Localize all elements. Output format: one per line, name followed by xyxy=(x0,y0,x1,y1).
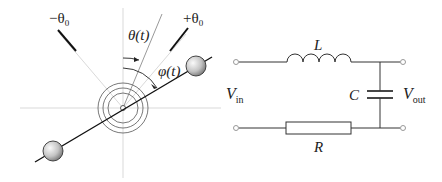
capacitor-label: C xyxy=(349,87,360,103)
resistor-label: R xyxy=(313,139,323,155)
pendulum-diagram: −θ0 +θ0 θ(t) φ(t) xyxy=(20,8,221,178)
inductor-label: L xyxy=(313,37,322,53)
plus-theta0-label: +θ0 xyxy=(183,10,204,28)
ball-upper xyxy=(186,56,206,76)
theta-t-label: θ(t) xyxy=(128,27,150,44)
inductor xyxy=(287,54,351,62)
v-out-label: Vout xyxy=(403,85,426,105)
minus-theta0-label: −θ0 xyxy=(49,10,70,28)
figure: −θ0 +θ0 θ(t) φ(t) L C R Vin Vout xyxy=(0,0,442,182)
terminal-out-bottom xyxy=(401,126,406,131)
circuit-diagram xyxy=(234,54,406,134)
v-in-label: Vin xyxy=(226,85,244,105)
phi-t-label: φ(t) xyxy=(158,63,180,80)
terminal-in-bottom xyxy=(234,126,239,131)
plus-theta0-marker xyxy=(170,28,188,51)
resistor xyxy=(286,122,351,134)
minus-theta0-guide xyxy=(60,34,123,108)
minus-theta0-marker xyxy=(58,30,76,51)
circuit-labels: L C R Vin Vout xyxy=(226,37,426,155)
ball-lower xyxy=(43,141,63,161)
terminal-in-top xyxy=(234,60,239,65)
terminal-out-top xyxy=(401,60,406,65)
